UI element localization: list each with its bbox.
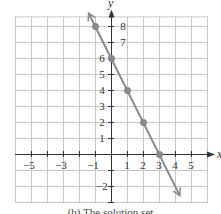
x-axis-label: x bbox=[216, 147, 221, 161]
y-tick-label: 5 bbox=[99, 68, 105, 80]
data-point bbox=[140, 119, 147, 126]
x-axis-arrow-icon bbox=[207, 152, 215, 158]
y-axis-arrow-icon bbox=[109, 9, 115, 17]
coordinate-plane: −5−3−11234587654321−2xy bbox=[0, 0, 221, 214]
x-tick-label: −3 bbox=[55, 159, 67, 171]
x-tick-label: 4 bbox=[172, 159, 178, 171]
x-tick-label: 2 bbox=[140, 159, 146, 171]
x-tick-label: −5 bbox=[23, 159, 35, 171]
y-tick-label: 3 bbox=[99, 100, 105, 112]
data-point bbox=[156, 151, 163, 158]
y-tick-label: 8 bbox=[120, 20, 126, 32]
x-tick-label: 5 bbox=[188, 159, 194, 171]
y-tick-label: 1 bbox=[99, 132, 105, 144]
y-tick-label: 2 bbox=[99, 116, 105, 128]
data-point bbox=[108, 55, 115, 62]
x-tick-label: −1 bbox=[87, 159, 99, 171]
y-axis-label: y bbox=[107, 0, 114, 10]
y-tick-label: 6 bbox=[99, 52, 105, 64]
x-tick-label: 1 bbox=[124, 159, 130, 171]
y-tick-label: 7 bbox=[120, 36, 126, 48]
data-point bbox=[124, 87, 131, 94]
y-tick-label: 4 bbox=[99, 84, 105, 96]
data-point bbox=[92, 23, 99, 30]
figure-caption: (b) The solution set bbox=[0, 206, 221, 214]
y-tick-label: −2 bbox=[96, 180, 108, 192]
